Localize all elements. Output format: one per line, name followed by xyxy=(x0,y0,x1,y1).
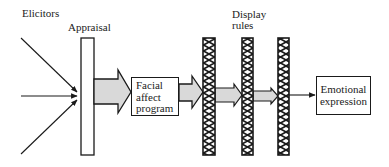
facial-affect-program-box: Facial affect program xyxy=(131,77,179,116)
display-rule-bar-2 xyxy=(242,38,253,155)
elicitor-arrow-bottom xyxy=(21,100,77,154)
elicitor-arrows xyxy=(21,38,77,154)
emotional-expression-line1: Emotional xyxy=(317,84,370,96)
label-appraisal: Appraisal xyxy=(68,22,111,33)
elicitor-arrow-top xyxy=(21,38,77,92)
label-elicitors: Elicitors xyxy=(22,8,59,19)
arrow-appraisal-to-program xyxy=(94,70,131,113)
arrow-program-to-display-rule-1 xyxy=(179,76,203,108)
emotional-expression-box: Emotional expression xyxy=(316,76,371,115)
facial-affect-program-line1: Facial xyxy=(136,80,178,92)
arrow-display-rule-1-to-2 xyxy=(215,84,242,106)
display-rule-bar-3 xyxy=(278,38,289,155)
facial-affect-program-line3: program xyxy=(136,103,178,115)
arrow-display-rule-2-to-3 xyxy=(253,88,278,104)
label-display-rules-line2: rules xyxy=(232,20,253,31)
display-rule-bar-1 xyxy=(203,38,215,155)
diagram-canvas: Elicitors Appraisal Display rules Facial… xyxy=(0,0,389,167)
appraisal-bar xyxy=(81,38,94,155)
emotional-expression-line2: expression xyxy=(317,96,370,108)
